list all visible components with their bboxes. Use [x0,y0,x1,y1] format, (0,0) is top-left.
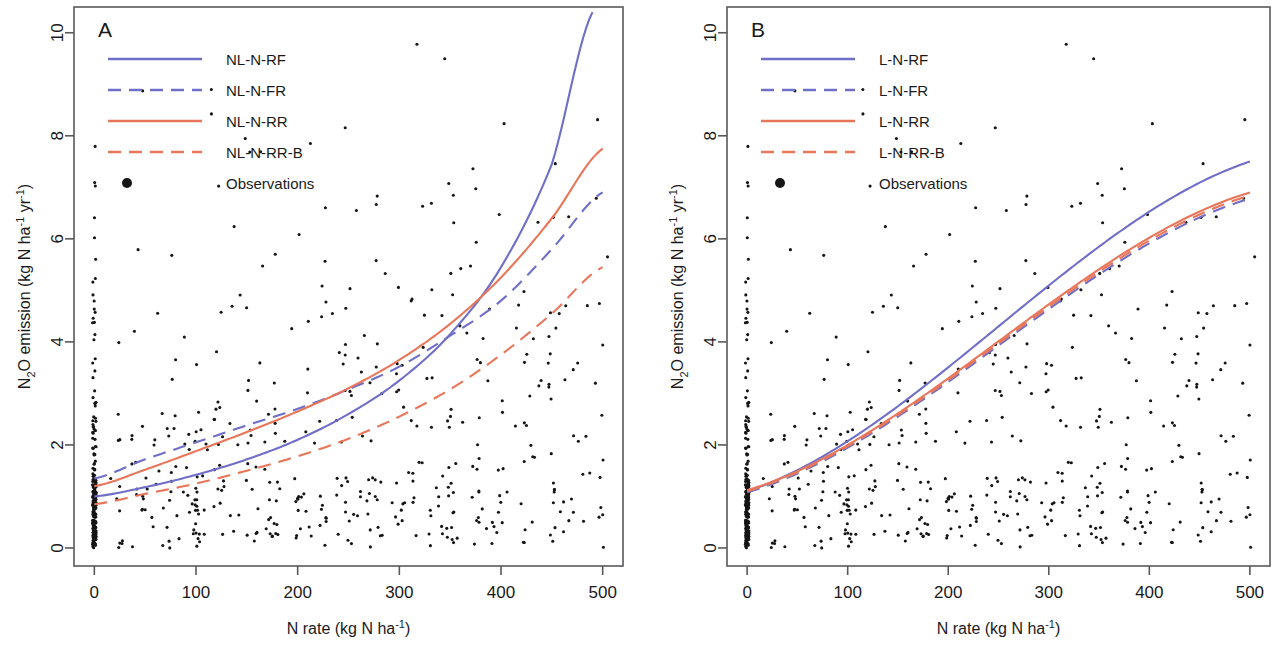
observation-points [91,43,609,550]
curve-nl-n-rr [94,149,602,486]
y-tick-label: 2 [49,440,68,449]
y-tick-label: 8 [702,131,721,140]
legend-label-nl-n-fr: NL-N-FR [226,82,286,99]
x-tick-label: 300 [385,583,413,602]
x-tick-label: 200 [283,583,311,602]
panel-letter: A [98,18,112,41]
legend: NL-N-RFNL-N-FRNL-N-RRNL-N-RR-BObservatio… [108,51,314,192]
curve-l-n-fr [747,199,1250,493]
figure-root: 01002003004005000246810N rate (kg N ha-1… [0,0,1274,656]
curve-nl-n-rr-b [94,267,602,504]
legend: L-N-RFL-N-FRL-N-RRL-N-RR-BObservations [761,51,967,192]
legend-marker-observations [122,178,132,188]
x-tick-label: 400 [487,583,515,602]
legend-label-l-n-fr: L-N-FR [879,82,928,99]
legend-label-l-n-rf: L-N-RF [879,51,928,68]
y-axis-title: N2O emission (kg N ha-1 yr-1) [667,184,690,389]
panel-letter: B [751,18,765,41]
legend-label-nl-n-rr-b: NL-N-RR-B [226,144,303,161]
curve-l-n-rf [747,162,1250,492]
legend-label-nl-n-rf: NL-N-RF [226,51,286,68]
x-tick-label: 200 [934,583,962,602]
observation-points [744,43,1256,550]
y-tick-label: 8 [49,131,68,140]
x-tick-label: 100 [182,583,210,602]
x-tick-label: 400 [1135,583,1163,602]
legend-label-l-n-rr-b: L-N-RR-B [879,144,945,161]
x-tick-label: 100 [833,583,861,602]
x-axis-title: N rate (kg N ha-1) [937,618,1061,637]
legend-label-l-n-rr: L-N-RR [879,113,930,130]
curve-l-n-rr-b [747,196,1250,492]
model-curves [94,12,602,504]
x-tick-label: 300 [1035,583,1063,602]
y-tick-label: 10 [49,23,68,42]
x-tick-label: 0 [742,583,751,602]
y-tick-label: 0 [49,543,68,552]
y-tick-label: 6 [49,234,68,243]
y-tick-label: 2 [702,440,721,449]
y-tick-label: 6 [702,234,721,243]
panel-b: 01002003004005000246810N rate (kg N ha-1… [648,0,1274,656]
x-tick-label: 500 [588,583,616,602]
y-axis-title: N2O emission (kg N ha-1 yr-1) [14,184,37,389]
model-curves [747,162,1250,493]
x-tick-label: 0 [90,583,99,602]
y-tick-label: 10 [702,23,721,42]
curve-nl-n-rf [94,12,592,496]
legend-label-observations: Observations [879,175,967,192]
y-tick-label: 0 [702,543,721,552]
curve-l-n-rr [747,192,1250,490]
y-axis: 0246810 [702,23,728,552]
panel-a-plot: 01002003004005000246810N rate (kg N ha-1… [0,0,640,656]
x-axis-title: N rate (kg N ha-1) [287,618,411,637]
x-axis: 0100200300400500 [90,566,617,602]
y-tick-label: 4 [702,337,721,346]
legend-label-nl-n-rr: NL-N-RR [226,113,288,130]
y-axis: 0246810 [49,23,75,552]
y-tick-label: 4 [49,337,68,346]
x-axis: 0100200300400500 [742,566,1264,602]
legend-marker-observations [775,178,785,188]
legend-label-observations: Observations [226,175,314,192]
panel-b-plot: 01002003004005000246810N rate (kg N ha-1… [648,0,1274,656]
panel-a: 01002003004005000246810N rate (kg N ha-1… [0,0,640,656]
x-tick-label: 500 [1236,583,1264,602]
